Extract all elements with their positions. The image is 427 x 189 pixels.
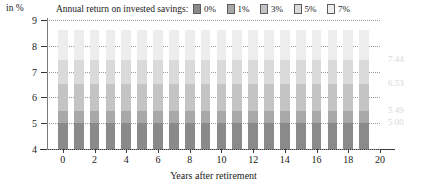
x-tick-label: 6 xyxy=(156,154,161,165)
bar-segment-1 xyxy=(201,111,211,124)
bar-column[interactable] xyxy=(106,20,116,149)
x-tick-mark xyxy=(380,149,381,153)
bar-segment-1 xyxy=(137,111,147,124)
legend-item-label: 1% xyxy=(237,4,249,14)
bar-segment-1 xyxy=(153,111,163,124)
bar-segment-7 xyxy=(106,30,116,60)
bar-segment-0 xyxy=(328,123,338,149)
bar-segment-1 xyxy=(121,111,131,124)
y-tick-label: 8 xyxy=(15,40,37,51)
bar-segment-0 xyxy=(121,123,131,149)
bar-column[interactable] xyxy=(58,20,68,149)
x-tick-label: 14 xyxy=(280,154,290,165)
x-tick-mark xyxy=(253,149,254,153)
bar-segment-5 xyxy=(328,60,338,83)
bar-column[interactable] xyxy=(296,20,306,149)
bar-segment-5 xyxy=(121,60,131,83)
bar-column[interactable] xyxy=(312,20,322,149)
bar-segment-1 xyxy=(58,111,68,124)
bar-segment-5 xyxy=(232,60,242,83)
bar-segment-7 xyxy=(169,30,179,60)
bar-segment-0 xyxy=(232,123,242,149)
bar-segment-1 xyxy=(90,111,100,124)
bar-segment-5 xyxy=(58,60,68,83)
bar-column[interactable] xyxy=(343,20,353,149)
y-tick-label: 4 xyxy=(15,144,37,155)
bar-segment-3 xyxy=(217,84,227,111)
bar-segment-7 xyxy=(328,30,338,60)
legend-title: Annual return on invested savings: xyxy=(56,4,188,14)
bar-segment-7 xyxy=(185,30,195,60)
legend-item-label: 7% xyxy=(338,4,350,14)
y-tick-label: 7 xyxy=(15,66,37,77)
chart-legend: Annual return on invested savings: 0%1%3… xyxy=(56,4,361,14)
bar-column[interactable] xyxy=(217,20,227,149)
bar-segment-5 xyxy=(296,60,306,83)
bar-segment-3 xyxy=(328,84,338,111)
bar-column[interactable] xyxy=(248,20,258,149)
legend-item-1[interactable]: 1% xyxy=(227,4,250,14)
y-tick-mark xyxy=(41,149,47,150)
bar-segment-0 xyxy=(312,123,322,149)
bar-column[interactable] xyxy=(280,20,290,149)
bar-column[interactable] xyxy=(90,20,100,149)
bar-segment-0 xyxy=(185,123,195,149)
bar-column[interactable] xyxy=(264,20,274,149)
legend-item-5[interactable]: 5% xyxy=(294,4,317,14)
x-tick-label: 12 xyxy=(248,154,258,165)
bar-segment-3 xyxy=(296,84,306,111)
bar-segment-7 xyxy=(121,30,131,60)
bar-segment-5 xyxy=(280,60,290,83)
bar-segment-3 xyxy=(232,84,242,111)
bar-segment-7 xyxy=(264,30,274,60)
legend-item-7[interactable]: 7% xyxy=(327,4,350,14)
bar-segment-0 xyxy=(280,123,290,149)
legend-item-0[interactable]: 0% xyxy=(193,4,216,14)
x-tick-mark xyxy=(63,149,64,153)
bar-segment-1 xyxy=(296,111,306,124)
x-tick-label: 10 xyxy=(216,154,226,165)
bar-column[interactable] xyxy=(232,20,242,149)
legend-item-label: 5% xyxy=(304,4,316,14)
bar-column[interactable] xyxy=(359,20,369,149)
bar-segment-1 xyxy=(217,111,227,124)
bar-column[interactable] xyxy=(185,20,195,149)
x-tick-mark xyxy=(221,149,222,153)
legend-items: 0%1%3%5%7% xyxy=(193,4,361,14)
gridline xyxy=(47,149,380,150)
bar-segment-3 xyxy=(121,84,131,111)
legend-item-3[interactable]: 3% xyxy=(260,4,283,14)
y-tick-label: 6 xyxy=(15,92,37,103)
bar-column[interactable] xyxy=(169,20,179,149)
bar-segment-5 xyxy=(201,60,211,83)
bar-segment-7 xyxy=(201,30,211,60)
y-tick-label: 9 xyxy=(15,15,37,26)
bar-column[interactable] xyxy=(201,20,211,149)
bar-segment-0 xyxy=(248,123,258,149)
value-annotation: 5.00 xyxy=(388,117,404,127)
bar-column[interactable] xyxy=(74,20,84,149)
bar-segment-5 xyxy=(217,60,227,83)
bar-segment-1 xyxy=(328,111,338,124)
bar-segment-3 xyxy=(264,84,274,111)
x-tick-mark xyxy=(348,149,349,153)
bar-segment-7 xyxy=(280,30,290,60)
x-tick-label: 0 xyxy=(60,154,65,165)
bar-segment-5 xyxy=(137,60,147,83)
bar-segment-3 xyxy=(201,84,211,111)
x-tick-mark xyxy=(285,149,286,153)
bar-segment-3 xyxy=(185,84,195,111)
bar-column[interactable] xyxy=(153,20,163,149)
bar-column[interactable] xyxy=(137,20,147,149)
value-annotation: 7.44 xyxy=(388,54,404,64)
bar-column[interactable] xyxy=(121,20,131,149)
bar-segment-3 xyxy=(90,84,100,111)
y-tick-mark xyxy=(41,123,47,124)
legend-swatch-icon xyxy=(227,4,235,14)
bar-segment-1 xyxy=(169,111,179,124)
bar-column[interactable] xyxy=(328,20,338,149)
x-tick-mark xyxy=(95,149,96,153)
y-tick-mark xyxy=(41,20,47,21)
bar-segment-5 xyxy=(74,60,84,83)
bar-segment-5 xyxy=(185,60,195,83)
